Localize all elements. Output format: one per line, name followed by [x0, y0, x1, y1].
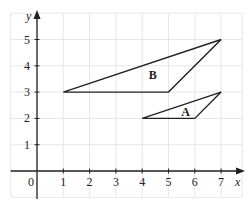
- coordinate-grid-diagram: x y 0 1234567 12345 AB: [0, 0, 250, 204]
- y-tick-label: 1: [24, 138, 30, 152]
- y-axis-arrow-icon: [34, 10, 41, 19]
- x-tick-label: 5: [166, 175, 172, 189]
- x-axis-arrow-icon: [236, 168, 245, 175]
- x-tick-label: 7: [218, 175, 224, 189]
- y-tick-label: 3: [24, 85, 30, 99]
- origin-label: 0: [28, 175, 34, 189]
- y-tick-label: 2: [24, 111, 30, 125]
- x-tick-label: 6: [192, 175, 198, 189]
- y-axis-label: y: [25, 9, 32, 23]
- x-tick-label: 4: [139, 175, 145, 189]
- x-tick-label: 2: [87, 175, 93, 189]
- y-tick-label: 4: [24, 59, 30, 73]
- triangle-a-label: A: [181, 105, 190, 119]
- x-tick-label: 3: [113, 175, 119, 189]
- x-tick-label: 1: [60, 175, 66, 189]
- x-axis-label: x: [234, 175, 241, 189]
- triangle-b-label: B: [149, 68, 157, 82]
- y-tick-label: 5: [24, 33, 30, 47]
